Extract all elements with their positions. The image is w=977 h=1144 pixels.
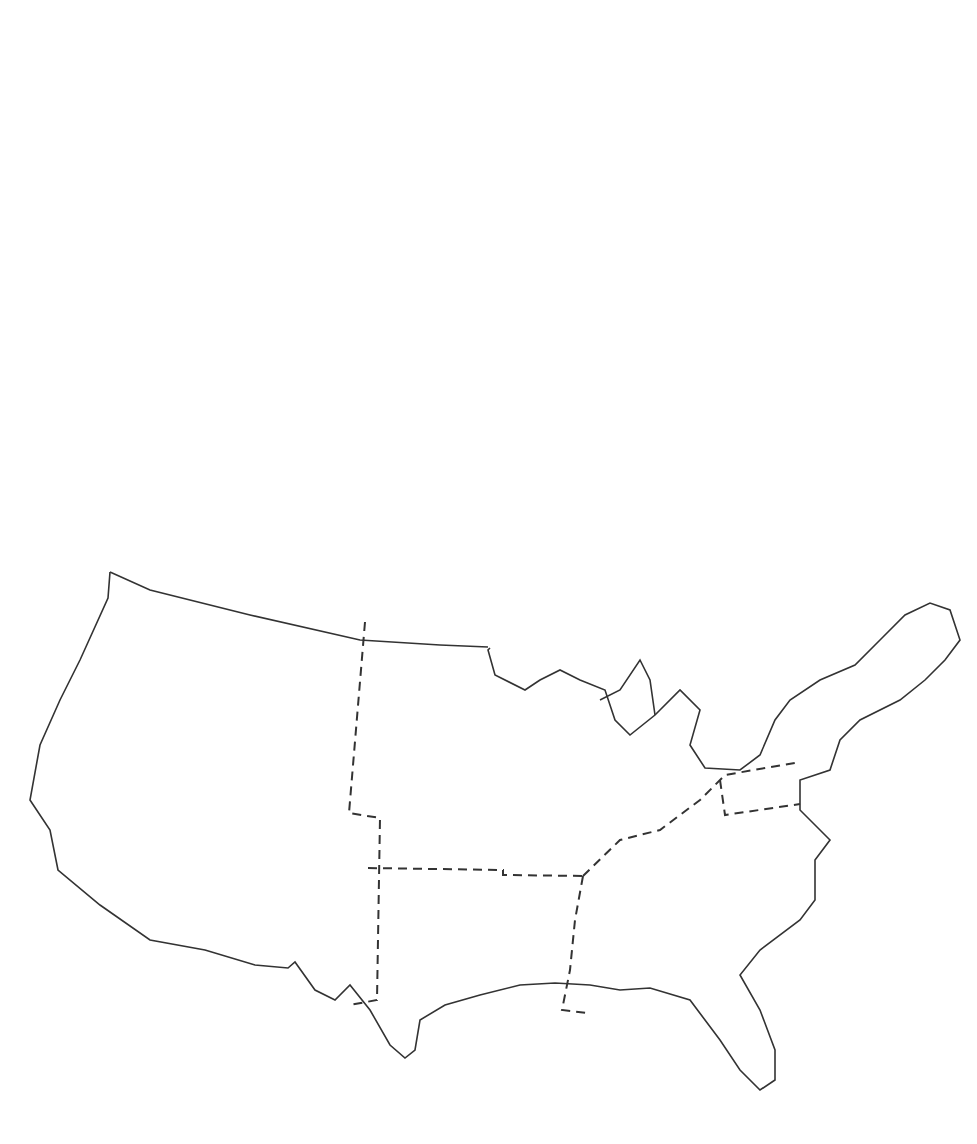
national-indicators-top-row	[0, 0, 977, 280]
region-boundaries	[349, 622, 800, 1013]
national-indicators-second-row	[0, 270, 977, 530]
us-outline	[30, 572, 960, 1090]
us-regional-map	[0, 560, 977, 1100]
